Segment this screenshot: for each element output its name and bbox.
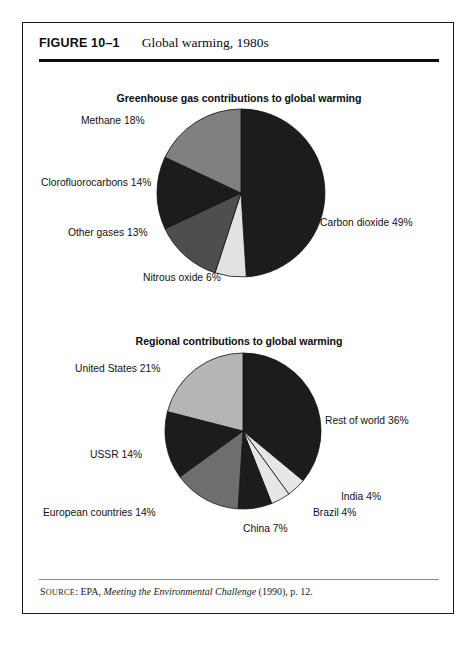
pie-label-other-gases: Other gases 13% (68, 227, 148, 238)
pie-label-united-states: United States 21% (75, 363, 160, 374)
pie-label-brazil: Brazil 4% (313, 507, 357, 518)
pie-chart-regional (163, 351, 323, 511)
pie-label-nitrous-oxide: Nitrous oxide 6% (143, 272, 221, 283)
source-prefix: : EPA, (75, 586, 103, 597)
source-label-rest: OURCE (46, 588, 75, 597)
pie-label-clorofluorocarbons: Clorofluorocarbons 14% (41, 177, 151, 188)
source-title: Meeting the Environmental Challenge (103, 586, 256, 597)
figure-page: FIGURE 10–1 Global warming, 1980s Greenh… (0, 0, 476, 650)
pie-label-european-countries: European countries 14% (43, 507, 156, 518)
pie-slice-carbon-dioxide (241, 109, 325, 277)
chart-regional: Regional contributions to global warming… (23, 323, 455, 573)
chart-greenhouse: Greenhouse gas contributions to global w… (23, 75, 455, 325)
figure-number: FIGURE 10–1 (39, 36, 120, 50)
pie-label-india: India 4% (341, 491, 381, 502)
chart-regional-title: Regional contributions to global warming (23, 335, 455, 347)
pie-label-china: China 7% (243, 523, 288, 534)
header-rule (39, 59, 439, 62)
pie-label-rest-of-world: Rest of world 36% (325, 415, 409, 426)
pie-label-ussr: USSR 14% (90, 449, 142, 460)
source-divider (39, 579, 439, 580)
source-label: SOURCE (40, 588, 75, 597)
pie-label-carbon-dioxide: Carbon dioxide 49% (320, 217, 413, 228)
pie-chart-greenhouse (155, 107, 327, 279)
source-note: SOURCE: EPA, Meeting the Environmental C… (40, 586, 436, 597)
figure-box: FIGURE 10–1 Global warming, 1980s Greenh… (22, 22, 454, 614)
source-suffix: (1990), p. 12. (256, 586, 313, 597)
pie-label-methane: Methane 18% (81, 115, 145, 126)
figure-title: Global warming, 1980s (142, 35, 269, 51)
chart-greenhouse-title: Greenhouse gas contributions to global w… (23, 92, 455, 104)
